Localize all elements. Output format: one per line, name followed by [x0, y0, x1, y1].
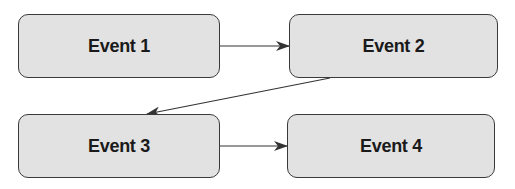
node-label: Event 1 — [88, 36, 150, 57]
node-label: Event 2 — [363, 36, 425, 57]
node-event-3: Event 3 — [18, 114, 220, 178]
node-label: Event 4 — [360, 136, 422, 157]
node-label: Event 3 — [88, 136, 150, 157]
node-event-4: Event 4 — [287, 114, 495, 178]
event-flow-diagram: Event 1 Event 2 Event 3 Event 4 — [0, 0, 515, 189]
node-event-2: Event 2 — [289, 14, 498, 78]
arrow-event2-to-event3 — [147, 78, 330, 114]
node-event-1: Event 1 — [18, 14, 220, 78]
